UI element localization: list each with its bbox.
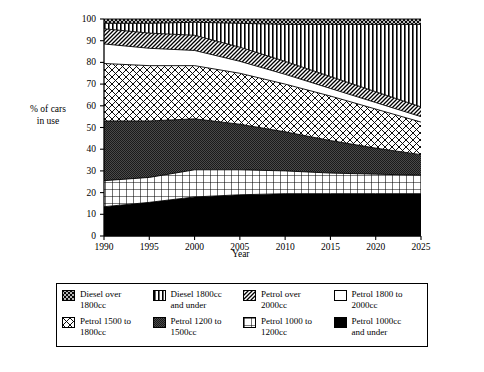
legend-label-line1: Petrol 1800 to bbox=[352, 289, 403, 300]
y-axis-tick-label: 30 bbox=[70, 166, 96, 176]
y-axis-title-line2: in use bbox=[17, 116, 79, 128]
legend-label-line2: 1200cc bbox=[261, 327, 312, 338]
legend-swatch-diagonal-crosshatch-swatch bbox=[62, 317, 75, 328]
legend-swatch-blank-white-swatch bbox=[334, 290, 347, 301]
legend-label-line2: 2000cc bbox=[261, 300, 301, 311]
legend-swatch-solid-black-swatch bbox=[334, 317, 347, 328]
area-bands bbox=[104, 19, 421, 236]
y-axis-tick-label: 20 bbox=[70, 188, 96, 198]
legend-label: Petrol over2000cc bbox=[261, 289, 301, 310]
legend-swatch-dense-stipple-swatch bbox=[153, 317, 166, 328]
legend-label-line1: Diesel over bbox=[80, 289, 121, 300]
legend-label-line2: 1800cc bbox=[80, 300, 121, 311]
legend-label: Diesel over1800cc bbox=[80, 289, 121, 310]
legend-label-line1: Diesel 1800cc bbox=[171, 289, 222, 300]
stacked-area-chart: 1009080706050403020100 19901995200020052… bbox=[0, 0, 484, 275]
legend-item: Petrol 1800 to2000cc bbox=[334, 289, 425, 316]
legend-item: Diesel over1800cc bbox=[62, 289, 153, 316]
y-axis-title: % of cars in use bbox=[17, 104, 79, 127]
y-axis-tick-label: 40 bbox=[70, 144, 96, 154]
legend-item: Petrol 1000 to1200cc bbox=[243, 316, 334, 343]
legend-label-line2: and under bbox=[171, 300, 222, 311]
legend-label-line1: Petrol 1200 to bbox=[171, 316, 222, 327]
x-axis-tick-label: 2015 bbox=[313, 242, 347, 252]
x-axis-tick-label: 2025 bbox=[404, 242, 438, 252]
legend-swatch-vertical-stripes-swatch bbox=[153, 290, 166, 301]
y-axis-tick-label: 0 bbox=[70, 231, 96, 241]
legend-item: Diesel 1800ccand under bbox=[153, 289, 244, 316]
x-axis-title: Year bbox=[232, 249, 250, 259]
legend-label-line2: and under bbox=[352, 327, 402, 338]
chart-legend: Diesel over1800ccDiesel 1800ccand underP… bbox=[56, 283, 428, 347]
y-axis-tick-label: 10 bbox=[70, 209, 96, 219]
legend-item: Petrol 1200 to1500cc bbox=[153, 316, 244, 343]
legend-label-line2: 2000cc bbox=[352, 300, 403, 311]
legend-item: Petrol over2000cc bbox=[243, 289, 334, 316]
legend-label-line2: 1800cc bbox=[80, 327, 131, 338]
legend-label: Petrol 1800 to2000cc bbox=[352, 289, 403, 310]
x-axis-tick-label: 2000 bbox=[178, 242, 212, 252]
legend-item: Petrol 1000ccand under bbox=[334, 316, 425, 343]
x-axis-tick-label: 2020 bbox=[359, 242, 393, 252]
y-axis-tick-label: 80 bbox=[70, 57, 96, 67]
y-axis-title-line1: % of cars bbox=[17, 104, 79, 116]
y-axis-tick-label: 100 bbox=[70, 14, 96, 24]
x-axis-tick-label: 1990 bbox=[87, 242, 121, 252]
legend-label: Petrol 1000ccand under bbox=[352, 316, 402, 337]
legend-grid: Diesel over1800ccDiesel 1800ccand underP… bbox=[62, 289, 424, 343]
legend-swatch-dense-diagonal-crosshatch-swatch bbox=[62, 290, 75, 301]
legend-label: Petrol 1200 to1500cc bbox=[171, 316, 222, 337]
legend-swatch-diagonal-hatch-swatch bbox=[243, 290, 256, 301]
legend-item: Petrol 1500 to1800cc bbox=[62, 316, 153, 343]
y-axis-tick-label: 90 bbox=[70, 36, 96, 46]
y-axis-tick-label: 70 bbox=[70, 79, 96, 89]
x-axis-tick-label: 2010 bbox=[268, 242, 302, 252]
legend-label: Diesel 1800ccand under bbox=[171, 289, 222, 310]
x-axis-tick-label: 1995 bbox=[132, 242, 166, 252]
legend-label-line1: Petrol 1500 to bbox=[80, 316, 131, 327]
legend-label-line1: Petrol over bbox=[261, 289, 301, 300]
legend-label-line1: Petrol 1000cc bbox=[352, 316, 402, 327]
legend-label: Petrol 1000 to1200cc bbox=[261, 316, 312, 337]
legend-swatch-square-grid-swatch bbox=[243, 317, 256, 328]
legend-label: Petrol 1500 to1800cc bbox=[80, 316, 131, 337]
legend-label-line2: 1500cc bbox=[171, 327, 222, 338]
legend-label-line1: Petrol 1000 to bbox=[261, 316, 312, 327]
